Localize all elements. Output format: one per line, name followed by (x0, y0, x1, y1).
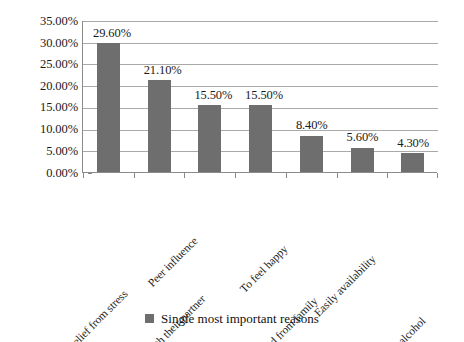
y-tick-label: 30.00% (12, 37, 78, 50)
x-tick-mark (83, 173, 84, 178)
y-tick-label: 15.00% (12, 101, 78, 114)
bar-slot: 4.30% (387, 20, 438, 172)
bar-value-label: 8.40% (296, 119, 328, 132)
x-axis-label: Easily availability (285, 253, 378, 342)
bar-chart: 35.00% 30.00% 25.00% 20.00% 15.00% 10.00… (0, 0, 464, 342)
bar[interactable] (401, 153, 424, 172)
x-tick-mark (286, 173, 287, 178)
y-tick-label: 10.00% (12, 123, 78, 136)
legend-swatch-icon (145, 314, 154, 323)
legend-label: Single most important reasons (161, 312, 319, 325)
y-tick-label: 20.00% (12, 80, 78, 93)
bar-slot: 8.40% (286, 20, 337, 172)
x-tick-mark (387, 173, 388, 178)
bar-value-label: 15.50% (245, 89, 283, 102)
x-tick-mark (134, 173, 135, 178)
x-tick-mark (235, 173, 236, 178)
bar-value-label: 5.60% (347, 131, 379, 144)
plot-area: 29.60% 21.10% 15.50% 15.50% 8.40% 5.60% (82, 21, 437, 173)
x-tick-mark (337, 173, 338, 178)
y-tick-label: 0.00% (12, 167, 78, 180)
bar-slot: 15.50% (184, 20, 235, 172)
y-tick-label: 5.00% (12, 145, 78, 158)
y-tick-label: 35.00% (12, 15, 78, 28)
y-tick-label: 25.00% (12, 58, 78, 71)
bar-slot: 29.60% (83, 20, 134, 172)
y-axis: 35.00% 30.00% 25.00% 20.00% 15.00% 10.00… (10, 21, 78, 173)
chart-legend: Single most important reasons (0, 312, 464, 325)
x-axis-label: Peer influence (93, 235, 200, 342)
x-tick-mark (437, 173, 438, 178)
bar[interactable] (249, 105, 272, 172)
bar-slot: 15.50% (235, 20, 286, 172)
bar-slot: 5.60% (337, 20, 388, 172)
bar[interactable] (198, 105, 221, 172)
bar-slot: 21.10% (134, 20, 185, 172)
bar-value-label: 15.50% (194, 89, 232, 102)
x-tick-mark (184, 173, 185, 178)
bar-value-label: 29.60% (93, 27, 131, 40)
bar-value-label: 21.10% (144, 64, 182, 77)
bar[interactable] (300, 136, 323, 173)
bar[interactable] (97, 43, 120, 172)
bar[interactable] (351, 148, 374, 172)
bar[interactable] (148, 80, 171, 172)
y-tick-mark (88, 173, 92, 174)
bar-value-label: 4.30% (397, 137, 429, 150)
